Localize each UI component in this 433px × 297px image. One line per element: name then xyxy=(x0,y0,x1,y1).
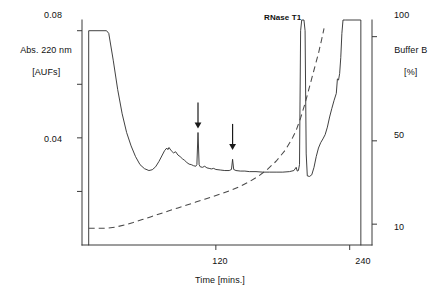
right-axis-units-text: [%] xyxy=(404,67,417,77)
y-tick-label-004: 0.04 xyxy=(18,134,62,145)
rnase-t1-annotation: RNase T1 xyxy=(264,12,301,23)
left-axis-label-text: Abs. 220 nm xyxy=(20,45,72,55)
right-axis-label: Buffer B [%] xyxy=(378,34,433,89)
chromatogram-figure: Abs. 220 nm [AUFs] Buffer B [%] 0.08 0.0… xyxy=(0,0,433,297)
y-tick-label-008: 0.08 xyxy=(18,10,62,21)
left-axis-units-text: [AUFs] xyxy=(32,67,60,77)
y2-tick-label-100: 100 xyxy=(394,10,409,21)
x-tick-label-120: 120 xyxy=(200,256,240,267)
y2-tick-label-10: 10 xyxy=(394,222,404,233)
left-axis-label: Abs. 220 nm [AUFs] xyxy=(4,34,78,89)
right-axis-label-text: Buffer B xyxy=(394,45,427,55)
x-tick-label-240: 240 xyxy=(343,256,383,267)
y2-tick-label-50: 50 xyxy=(394,130,404,141)
x-axis-label: Time [mins.] xyxy=(170,275,270,286)
